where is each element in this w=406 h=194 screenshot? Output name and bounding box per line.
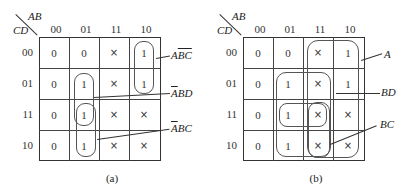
col-header: 01 — [71, 23, 101, 35]
term-label-a'bc: ABC — [171, 122, 192, 134]
kmap-cell: 0 — [39, 99, 69, 130]
panel-caption: (b) — [301, 172, 331, 184]
kmap-panel-a: AB CD 00 01 11 10 00 01 11 10 0 0 × 1 0 … — [0, 0, 203, 194]
panel-caption: (a) — [97, 172, 127, 184]
row-variable-label: CD — [217, 24, 232, 36]
col-header: 01 — [275, 23, 305, 35]
kmap-cell: 0 — [69, 37, 99, 68]
col-header: 11 — [101, 23, 131, 35]
term-label-bd: BD — [381, 86, 396, 98]
col-header: 10 — [335, 23, 365, 35]
row-header: 10 — [215, 139, 237, 151]
leader-line — [336, 93, 380, 94]
kmap-cell: 0 — [243, 99, 273, 130]
kmap-cell: 0 — [39, 130, 69, 161]
row-header: 01 — [11, 77, 33, 89]
kmap-cell: × — [99, 99, 129, 130]
kmap-cell: × — [129, 99, 159, 130]
term-label-a'bd: ABD — [171, 87, 192, 99]
kmap-cell: 0 — [243, 68, 273, 99]
col-header: 10 — [131, 23, 161, 35]
kmap-cell: 0 — [273, 37, 303, 68]
kmap-cell: × — [99, 37, 129, 68]
kmap-cell: 0 — [243, 37, 273, 68]
kmap-cell: 0 — [39, 68, 69, 99]
col-variable-label: AB — [28, 10, 41, 22]
col-header: 11 — [305, 23, 335, 35]
term-label-bc: BC — [380, 118, 394, 130]
row-header: 00 — [11, 46, 33, 58]
row-header: 00 — [215, 46, 237, 58]
grouping-loop-bc — [308, 102, 330, 158]
row-header: 01 — [215, 77, 237, 89]
grouping-loop-a'bc — [76, 103, 96, 157]
term-label-a: A — [384, 48, 391, 60]
row-variable-label: CD — [13, 24, 28, 36]
kmap-cell: 0 — [243, 130, 273, 161]
row-header: 11 — [215, 108, 237, 120]
col-header: 00 — [41, 23, 71, 35]
kmap-panel-b: AB CD 00 01 11 10 00 01 11 10 0 0 × 1 0 … — [203, 0, 406, 194]
row-header: 10 — [11, 139, 33, 151]
kmap-cell: 0 — [39, 37, 69, 68]
term-label-ab'c': ABC — [171, 49, 192, 61]
col-variable-label: AB — [232, 10, 245, 22]
row-header: 11 — [11, 108, 33, 120]
kmap-cell: × — [99, 68, 129, 99]
grouping-loop-ab'c' — [134, 41, 154, 94]
col-header: 00 — [245, 23, 275, 35]
